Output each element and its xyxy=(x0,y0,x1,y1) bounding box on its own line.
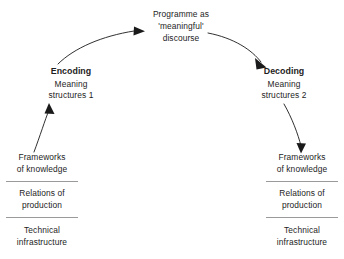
stack-left-cell-relations: Relations of production xyxy=(2,188,82,211)
diagram-canvas: Programme as 'meaningful' discourse Enco… xyxy=(0,0,344,259)
decoding-to-frameworks-arrow xyxy=(284,104,301,146)
decoding-line-2: structures 2 xyxy=(236,90,332,102)
stack-right-frameworks-line-2: of knowledge xyxy=(262,164,342,176)
stack-right-technical-line-2: infrastructure xyxy=(262,237,342,249)
discourse-line-3: discourse xyxy=(140,32,222,44)
stack-right-rule-1 xyxy=(266,181,338,182)
stack-right-cell-relations: Relations of production xyxy=(262,188,342,211)
stack-right-cell-frameworks: Frameworks of knowledge xyxy=(262,152,342,175)
decoding-label: Decoding Meaning structures 2 xyxy=(236,66,332,102)
stack-left-relations-line-2: production xyxy=(2,200,82,212)
encoding-label: Encoding Meaning structures 1 xyxy=(24,66,118,102)
stack-left-rule-1 xyxy=(6,181,78,182)
stack-right: Frameworks of knowledge Relations of pro… xyxy=(262,152,342,248)
encoding-to-discourse-arrow xyxy=(58,31,134,64)
stack-right-technical-line-1: Technical xyxy=(262,225,342,237)
stack-left-cell-technical: Technical infrastructure xyxy=(2,224,82,248)
decoding-title: Decoding xyxy=(236,66,332,78)
stack-left-relations-line-1: Relations of xyxy=(2,188,82,200)
encoding-title: Encoding xyxy=(24,66,118,78)
frameworks-to-encoding-arrow xyxy=(34,110,49,152)
discourse-line-1: Programme as xyxy=(140,8,222,20)
decoding-line-1: Meaning xyxy=(236,79,332,91)
stack-left-frameworks-line-1: Frameworks xyxy=(2,152,82,164)
stack-left: Frameworks of knowledge Relations of pro… xyxy=(2,152,82,248)
stack-left-cell-frameworks: Frameworks of knowledge xyxy=(2,152,82,175)
stack-right-relations-line-2: production xyxy=(262,200,342,212)
encoding-line-2: structures 1 xyxy=(24,90,118,102)
stack-right-rule-2 xyxy=(266,217,338,218)
discourse-line-2: 'meaningful' xyxy=(140,20,222,32)
stack-left-frameworks-line-2: of knowledge xyxy=(2,164,82,176)
stack-left-rule-2 xyxy=(6,217,78,218)
stack-right-relations-line-1: Relations of xyxy=(262,188,342,200)
encoding-line-1: Meaning xyxy=(24,79,118,91)
arrowhead-encoding xyxy=(45,103,55,114)
stack-right-cell-technical: Technical infrastructure xyxy=(262,224,342,248)
discourse-label: Programme as 'meaningful' discourse xyxy=(140,8,222,44)
stack-left-technical-line-1: Technical xyxy=(2,225,82,237)
stack-right-frameworks-line-1: Frameworks xyxy=(262,152,342,164)
stack-left-technical-line-2: infrastructure xyxy=(2,237,82,249)
